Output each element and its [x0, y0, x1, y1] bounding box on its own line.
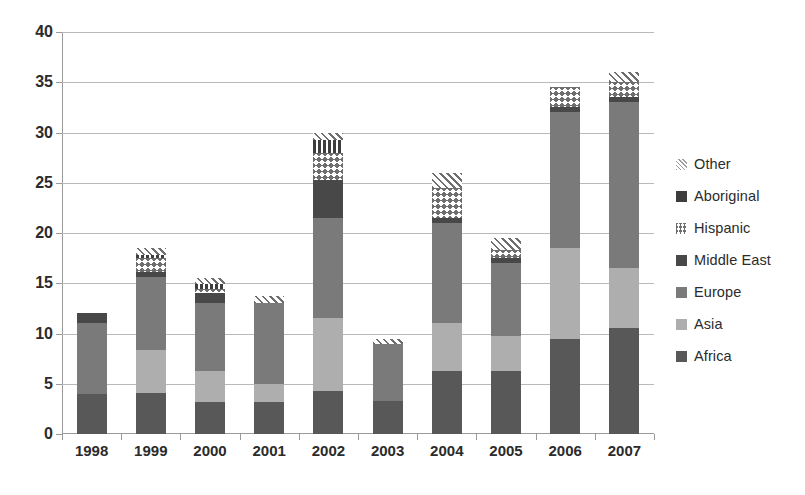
- x-tick-mark: [62, 434, 63, 440]
- x-tick-mark: [358, 434, 359, 440]
- bar-segment-other[interactable]: [195, 278, 225, 284]
- bar-segment-asia[interactable]: [313, 318, 343, 390]
- bar-segment-europe[interactable]: [373, 344, 403, 401]
- bar-segment-hispanic[interactable]: [136, 258, 166, 272]
- x-tick-mark: [121, 434, 122, 440]
- x-tick-label: 2000: [193, 442, 226, 459]
- bar-segment-hispanic[interactable]: [432, 188, 462, 218]
- legend-swatch-icon: [676, 287, 687, 298]
- bar-segment-middle-east[interactable]: [491, 258, 521, 263]
- bar-segment-aboriginal[interactable]: [195, 284, 225, 289]
- bar-segment-other[interactable]: [254, 296, 284, 303]
- x-tick-label: 2006: [549, 442, 582, 459]
- y-tick-label: 15: [35, 274, 53, 292]
- bar-segment-africa[interactable]: [550, 339, 580, 434]
- bar-segment-other[interactable]: [609, 72, 639, 82]
- legend-label: Africa: [694, 348, 732, 364]
- bar-segment-middle-east[interactable]: [550, 107, 580, 112]
- bar-segment-aboriginal[interactable]: [313, 140, 343, 153]
- bar-segment-asia[interactable]: [491, 336, 521, 371]
- stacked-bar-chart: 0510152025303540 19981999200020012002200…: [0, 0, 805, 495]
- x-tick-mark: [299, 434, 300, 440]
- legend-item-middle-east[interactable]: Middle East: [676, 244, 804, 276]
- bar-segment-europe[interactable]: [313, 218, 343, 319]
- bar-segment-middle-east[interactable]: [609, 97, 639, 102]
- y-tick-label: 25: [35, 174, 53, 192]
- bar-group[interactable]: [254, 32, 284, 434]
- bar-segment-middle-east[interactable]: [313, 180, 343, 218]
- bar-segment-europe[interactable]: [609, 102, 639, 268]
- bar-group[interactable]: [609, 32, 639, 434]
- bar-segment-aboriginal[interactable]: [136, 255, 166, 258]
- bar-segment-asia[interactable]: [254, 384, 284, 402]
- x-tick-mark: [536, 434, 537, 440]
- bar-segment-other[interactable]: [136, 248, 166, 255]
- bar-segment-hispanic[interactable]: [550, 87, 580, 107]
- bar-group[interactable]: [77, 32, 107, 434]
- y-tick-label: 35: [35, 73, 53, 91]
- bar-segment-hispanic[interactable]: [609, 82, 639, 97]
- bar-segment-other[interactable]: [491, 238, 521, 250]
- bar-segment-hispanic[interactable]: [195, 289, 225, 293]
- bar-segment-hispanic[interactable]: [491, 250, 521, 258]
- bar-segment-africa[interactable]: [373, 401, 403, 434]
- bar-group[interactable]: [195, 32, 225, 434]
- bar-segment-africa[interactable]: [254, 402, 284, 434]
- bar-segment-africa[interactable]: [195, 402, 225, 434]
- legend-swatch-icon: [676, 319, 687, 330]
- bar-segment-africa[interactable]: [609, 328, 639, 434]
- bar-segment-other[interactable]: [432, 173, 462, 188]
- bar-group[interactable]: [491, 32, 521, 434]
- bar-segment-europe[interactable]: [254, 303, 284, 383]
- legend-item-asia[interactable]: Asia: [676, 308, 804, 340]
- bar-segment-europe[interactable]: [550, 112, 580, 248]
- bar-segment-africa[interactable]: [77, 394, 107, 434]
- x-tick-label: 2001: [253, 442, 286, 459]
- bar-segment-asia[interactable]: [550, 248, 580, 338]
- legend-swatch-icon: [676, 351, 687, 362]
- bar-segment-hispanic[interactable]: [313, 153, 343, 180]
- legend-item-hispanic[interactable]: Hispanic: [676, 212, 804, 244]
- bar-group[interactable]: [550, 32, 580, 434]
- bar-segment-africa[interactable]: [491, 371, 521, 434]
- legend-item-africa[interactable]: Africa: [676, 340, 804, 372]
- bar-segment-asia[interactable]: [195, 371, 225, 402]
- legend-item-other[interactable]: Other: [676, 148, 804, 180]
- bar-segment-other[interactable]: [373, 339, 403, 344]
- x-tick-label: 2003: [371, 442, 404, 459]
- bar-segment-africa[interactable]: [432, 371, 462, 434]
- legend-item-aboriginal[interactable]: Aboriginal: [676, 180, 804, 212]
- x-tick-mark: [417, 434, 418, 440]
- bar-segment-middle-east[interactable]: [77, 313, 107, 323]
- bar-segment-asia[interactable]: [609, 268, 639, 328]
- bars-layer: [62, 32, 654, 434]
- bar-segment-africa[interactable]: [313, 391, 343, 434]
- bar-segment-africa[interactable]: [136, 393, 166, 434]
- bar-segment-middle-east[interactable]: [136, 272, 166, 277]
- x-tick-mark: [595, 434, 596, 440]
- legend-swatch-icon: [676, 191, 687, 202]
- legend-item-europe[interactable]: Europe: [676, 276, 804, 308]
- bar-segment-middle-east[interactable]: [195, 293, 225, 303]
- bar-segment-asia[interactable]: [432, 323, 462, 370]
- bar-segment-europe[interactable]: [195, 303, 225, 370]
- bar-segment-middle-east[interactable]: [432, 218, 462, 223]
- y-tick-label: 10: [35, 325, 53, 343]
- bar-segment-europe[interactable]: [491, 263, 521, 335]
- bar-segment-europe[interactable]: [136, 277, 166, 349]
- x-tick-mark: [476, 434, 477, 440]
- x-tick-label: 2004: [430, 442, 463, 459]
- bar-group[interactable]: [136, 32, 166, 434]
- bar-group[interactable]: [432, 32, 462, 434]
- bar-group[interactable]: [373, 32, 403, 434]
- bar-group[interactable]: [313, 32, 343, 434]
- y-tick-label: 20: [35, 224, 53, 242]
- x-tick-label: 1999: [134, 442, 167, 459]
- bar-segment-europe[interactable]: [432, 223, 462, 324]
- bar-segment-europe[interactable]: [77, 323, 107, 393]
- plot-area: 0510152025303540 19981999200020012002200…: [62, 32, 654, 434]
- bar-segment-asia[interactable]: [136, 350, 166, 393]
- bar-segment-other[interactable]: [313, 133, 343, 140]
- chart-legend: OtherAboriginalHispanicMiddle EastEurope…: [676, 148, 804, 372]
- y-tick-label: 40: [35, 23, 53, 41]
